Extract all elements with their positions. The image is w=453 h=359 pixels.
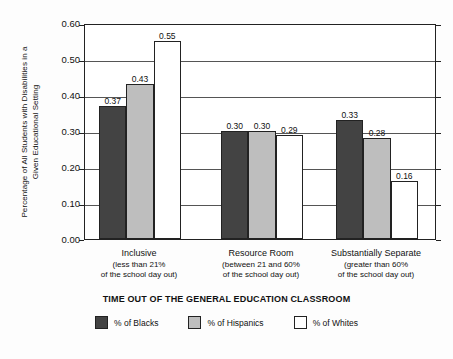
y-axis-tick-mark bbox=[79, 169, 84, 170]
category-name: Resource Room bbox=[222, 248, 300, 259]
bar-value-label: 0.43 bbox=[132, 75, 149, 84]
category-sublabel: (greater than 60% bbox=[331, 260, 421, 271]
y-axis-tick-label: 0.30 bbox=[44, 127, 80, 137]
y-axis-tick-mark-right bbox=[436, 240, 441, 241]
y-axis-tick-mark bbox=[79, 61, 84, 62]
bar bbox=[154, 41, 181, 239]
bar bbox=[276, 135, 303, 239]
category-sublabel: of the school day out) bbox=[101, 270, 178, 281]
bar-value-label: 0.16 bbox=[396, 172, 413, 181]
y-axis-tick-label: 0.10 bbox=[44, 199, 80, 209]
bar-value-label: 0.33 bbox=[341, 111, 358, 120]
category-sublabel: (less than 21% bbox=[101, 260, 178, 271]
legend-label: % of Whites bbox=[313, 318, 358, 328]
plot-area: 0.370.430.550.300.300.290.330.280.16 bbox=[84, 24, 436, 240]
bar-value-label: 0.37 bbox=[104, 97, 121, 106]
y-axis-tick-mark-right bbox=[436, 25, 441, 26]
y-axis-tick-label: 0.40 bbox=[44, 91, 80, 101]
y-axis-tick-label: 0.50 bbox=[44, 55, 80, 65]
legend-item[interactable]: % of Whites bbox=[294, 316, 358, 329]
x-axis-title: TIME OUT OF THE GENERAL EDUCATION CLASSR… bbox=[0, 294, 453, 304]
bar-value-label: 0.29 bbox=[281, 126, 298, 135]
x-axis-category-label: Substantially Separate(greater than 60%o… bbox=[331, 248, 421, 281]
y-axis-tick-mark bbox=[79, 240, 84, 241]
bar bbox=[391, 181, 418, 239]
gridline bbox=[85, 61, 435, 62]
category-name: Substantially Separate bbox=[331, 248, 421, 259]
y-axis-tick-mark-right bbox=[436, 169, 441, 170]
y-axis-tick-label: 0.60 bbox=[44, 19, 80, 29]
legend-swatch bbox=[95, 316, 108, 329]
y-axis-tick-mark-right bbox=[436, 61, 441, 62]
legend-swatch bbox=[188, 316, 201, 329]
legend-swatch bbox=[294, 316, 307, 329]
x-axis-category-label: Inclusive(less than 21%of the school day… bbox=[101, 248, 178, 281]
bar bbox=[336, 120, 363, 239]
legend-item[interactable]: % of Hispanics bbox=[188, 316, 263, 329]
category-name: Inclusive bbox=[101, 248, 178, 259]
bar-value-label: 0.28 bbox=[369, 129, 386, 138]
bar-value-label: 0.30 bbox=[226, 122, 243, 131]
y-axis-tick-mark bbox=[79, 25, 84, 26]
y-axis-tick-mark bbox=[79, 133, 84, 134]
x-axis-category-label: Resource Room(between 21 and 60%of the s… bbox=[222, 248, 300, 281]
y-axis-tick-labels: 0.000.100.200.300.400.500.60 bbox=[40, 0, 80, 359]
y-axis-tick-label: 0.00 bbox=[44, 235, 80, 245]
bar bbox=[126, 84, 153, 239]
bar bbox=[99, 106, 126, 239]
y-axis-tick-mark-right bbox=[436, 97, 441, 98]
y-axis-tick-mark-right bbox=[436, 133, 441, 134]
bar-value-label: 0.30 bbox=[254, 122, 271, 131]
bar-chart: Percentage of All Students with Disabili… bbox=[0, 0, 453, 359]
category-sublabel: of the school day out) bbox=[331, 270, 421, 281]
bar bbox=[248, 131, 275, 239]
legend-label: % of Blacks bbox=[114, 318, 158, 328]
category-sublabel: of the school day out) bbox=[222, 270, 300, 281]
y-axis-title-line-1: Percentage of All Students with Disabili… bbox=[20, 46, 29, 217]
y-axis-tick-label: 0.20 bbox=[44, 163, 80, 173]
bar bbox=[221, 131, 248, 239]
y-axis-tick-mark-right bbox=[436, 205, 441, 206]
category-sublabel: (between 21 and 60% bbox=[222, 260, 300, 271]
bar bbox=[363, 138, 390, 239]
chart-legend: % of Blacks% of Hispanics% of Whites bbox=[0, 316, 453, 329]
y-axis-tick-mark bbox=[79, 205, 84, 206]
y-axis-tick-mark bbox=[79, 97, 84, 98]
legend-item[interactable]: % of Blacks bbox=[95, 316, 158, 329]
legend-label: % of Hispanics bbox=[207, 318, 263, 328]
bar-value-label: 0.55 bbox=[159, 32, 176, 41]
